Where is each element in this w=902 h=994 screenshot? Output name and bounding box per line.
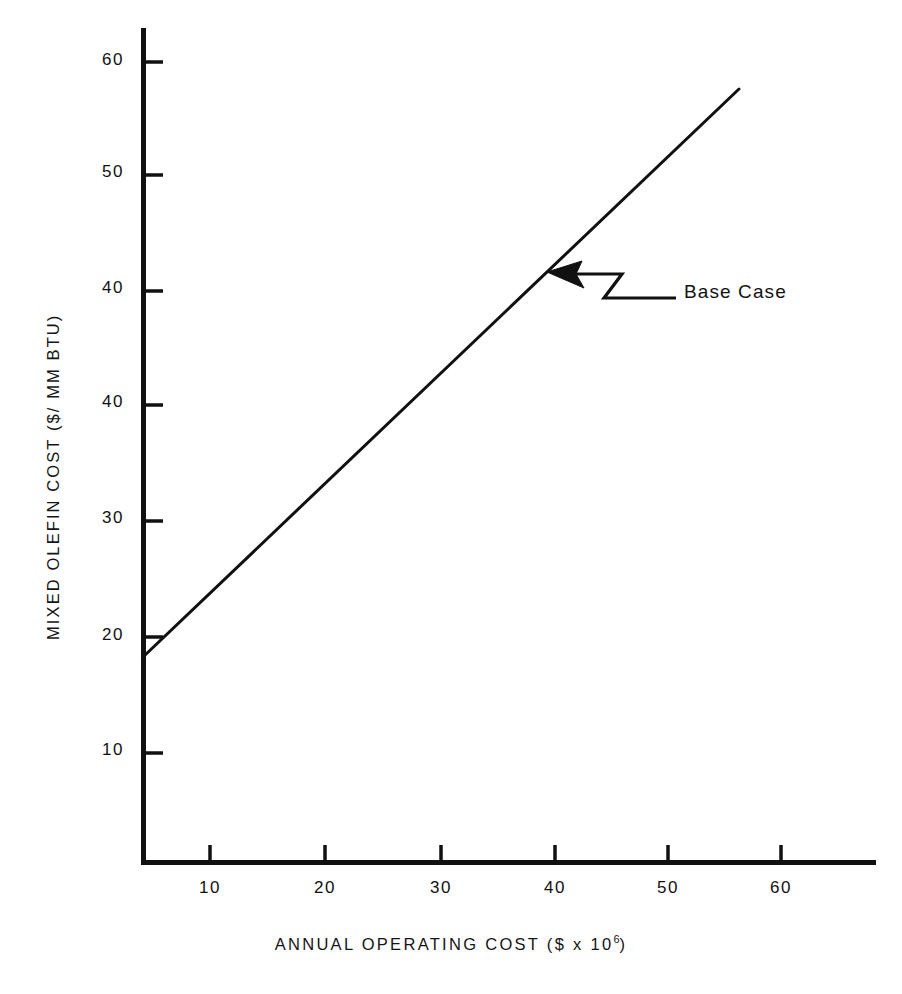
x-tick-label: 60 [758, 878, 804, 898]
y-axis-ticks [144, 62, 163, 753]
x-tick-label: 40 [532, 878, 578, 898]
data-series-line [143, 89, 739, 657]
annotation-leader [547, 261, 676, 298]
y-tick-label: 10 [78, 740, 124, 760]
x-axis-ticks [210, 845, 781, 862]
annotation-base-case-label: Base Case [684, 281, 787, 303]
y-tick-label: 40 [78, 278, 124, 298]
chart-figure: 60 50 40 40 30 20 10 10 20 30 40 50 60 M… [0, 0, 902, 994]
y-tick-label: 20 [78, 625, 124, 645]
x-axis-title-end: ) [620, 935, 628, 953]
y-tick-label: 40 [78, 392, 124, 412]
x-tick-label: 10 [187, 878, 233, 898]
x-axis-title: ANNUAL OPERATING COST ($ x 106) [0, 933, 902, 954]
y-tick-label: 30 [78, 508, 124, 528]
plot-area [0, 0, 902, 994]
x-tick-label: 50 [645, 878, 691, 898]
x-tick-label: 20 [302, 878, 348, 898]
y-axis-title: MIXED OLEFIN COST ($/ MM BTU) [44, 40, 63, 640]
x-tick-label: 30 [418, 878, 464, 898]
y-tick-label: 60 [78, 50, 124, 70]
x-axis-title-main: ANNUAL OPERATING COST ($ x 10 [275, 935, 614, 953]
y-tick-label: 50 [78, 162, 124, 182]
